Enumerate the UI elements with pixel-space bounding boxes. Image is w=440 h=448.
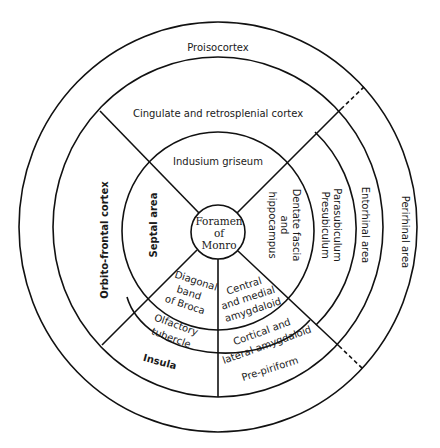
label-indusium: Indusium griseum xyxy=(173,156,263,167)
label-pre-piriform: Pre-piriform xyxy=(240,354,299,383)
label-entorhinal: Entorhinal area xyxy=(360,187,371,263)
label-foramen-1: Foramen xyxy=(195,215,242,227)
limbic-ring-diagram: Proisocortex Cingulate and retrosplenial… xyxy=(0,0,440,448)
label-proisocortex: Proisocortex xyxy=(187,42,249,53)
label-perirhinal: Perirhinal area xyxy=(400,196,411,269)
label-cingulate: Cingulate and retrosplenial cortex xyxy=(133,108,303,119)
label-foramen-2: of xyxy=(214,227,225,239)
label-parasubiculum: Parasubiculum xyxy=(332,188,343,261)
label-foramen-3: Monro xyxy=(201,239,236,251)
label-insula: Insula xyxy=(142,352,178,371)
label-orbito-frontal: Orbito-frontal cortex xyxy=(99,181,110,299)
label-presubiculum: Presubiculum xyxy=(320,191,331,258)
label-dentate-2: and xyxy=(279,216,290,235)
label-septal: Septal area xyxy=(148,193,159,258)
label-dentate-1: Dentate fascia xyxy=(291,189,302,262)
label-dentate-3: hippocampus xyxy=(267,191,278,258)
divider-lower-right-dashed xyxy=(339,346,363,369)
divider-upper-right-dashed xyxy=(341,85,366,109)
